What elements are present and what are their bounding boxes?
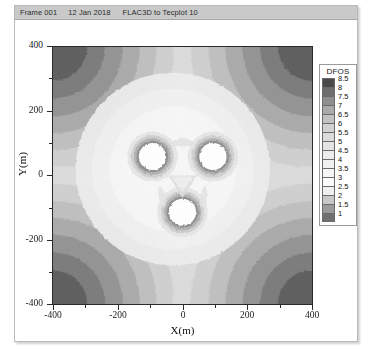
legend-swatch: [322, 150, 335, 159]
legend-swatch: [322, 177, 335, 186]
x-axis-tick-label: -400: [31, 310, 75, 320]
y-tick-minor-300: [49, 78, 52, 79]
legend-swatch: [322, 123, 335, 132]
legend-value-label: 2.5: [338, 183, 348, 191]
legend-value-label: 1: [338, 210, 342, 218]
legend-row[interactable]: 1: [322, 213, 354, 222]
y-tick-minor-neg100: [49, 208, 52, 209]
legend-value-label: 5.5: [338, 129, 348, 137]
x-tick-minor-neg300: [85, 305, 86, 308]
contour-field: .c1{fill:#dcdcdc}.c2{fill:#d0d0d0}.c3{fi…: [53, 47, 312, 304]
legend-value-label: 4: [338, 156, 342, 164]
legend-value-label: 7.5: [338, 93, 348, 101]
contour-plot-area[interactable]: .c1{fill:#dcdcdc}.c2{fill:#d0d0d0}.c3{fi…: [52, 46, 313, 305]
x-tick-minor-300: [280, 305, 281, 308]
legend-value-label: 6.5: [338, 111, 348, 119]
y-tick-minor-100: [49, 143, 52, 144]
legend-value-label: 3: [338, 174, 342, 182]
y-tick-0: [47, 175, 52, 176]
legend-swatch: [322, 96, 335, 105]
legend-swatch: [322, 168, 335, 177]
legend-swatch: [322, 204, 335, 213]
x-axis-tick-label: 400: [290, 310, 334, 320]
legend-value-label: 8: [338, 84, 342, 92]
y-axis-tick-label: 200: [3, 105, 43, 115]
x-axis-tick-label: -200: [96, 310, 140, 320]
legend-swatch: [322, 132, 335, 141]
x-axis-tick-label: 0: [161, 310, 205, 320]
legend-swatch: [322, 186, 335, 195]
y-tick-400: [47, 46, 52, 47]
x-axis-title: X(m): [52, 324, 313, 336]
legend-swatch: [322, 141, 335, 150]
frame-label: Frame 001: [20, 8, 57, 17]
legend-swatch: [322, 213, 335, 222]
legend-value-label: 2: [338, 192, 342, 200]
legend-value-label: 1.5: [338, 201, 348, 209]
legend-swatch: [322, 78, 335, 87]
legend-swatch: [322, 87, 335, 96]
legend-panel[interactable]: DFOS 8.587.576.565.554.543.532.521.51: [319, 64, 357, 226]
legend-value-label: 4.5: [338, 147, 348, 155]
source-label: FLAC3D to Tecplot 10: [123, 8, 198, 17]
legend-value-label: 6: [338, 120, 342, 128]
x-axis-tick-label: 200: [225, 310, 269, 320]
date-label: 12 Jan 2018: [68, 8, 110, 17]
legend-swatch: [322, 105, 335, 114]
y-tick-neg400: [47, 304, 52, 305]
y-axis-tick-label: -200: [3, 234, 43, 244]
legend-value-label: 8.5: [338, 75, 348, 83]
legend-swatch: [322, 195, 335, 204]
legend-swatch: [322, 114, 335, 123]
y-axis-title: Y(m): [16, 134, 28, 194]
y-axis-tick-label: 400: [3, 40, 43, 50]
x-tick-minor-100: [215, 305, 216, 308]
legend-value-label: 3.5: [338, 165, 348, 173]
y-tick-200: [47, 111, 52, 112]
legend-value-label: 5: [338, 138, 342, 146]
y-tick-neg200: [47, 240, 52, 241]
x-tick-minor-neg100: [150, 305, 151, 308]
legend-value-label: 7: [338, 102, 342, 110]
legend-color-scale: 8.587.576.565.554.543.532.521.51: [322, 78, 354, 222]
screenshot-root: Frame 001 12 Jan 2018 FLAC3D to Tecplot …: [0, 0, 376, 352]
legend-swatch: [322, 159, 335, 168]
y-axis-tick-label: -400: [3, 298, 43, 308]
status-title-bar: Frame 001 12 Jan 2018 FLAC3D to Tecplot …: [15, 6, 357, 20]
y-tick-minor-neg300: [49, 272, 52, 273]
